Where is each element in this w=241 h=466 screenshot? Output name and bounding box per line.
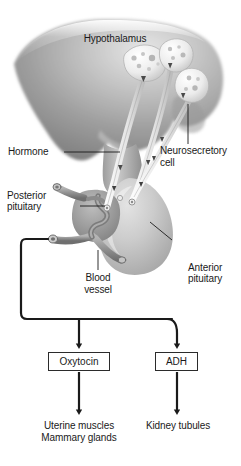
label-neurosecretory-cell-line2: cell bbox=[160, 157, 175, 169]
label-hypothalamus: Hypothalamus bbox=[62, 33, 168, 45]
label-posterior-pituitary-line1: Posterior bbox=[7, 190, 46, 202]
hormone-box-adh: ADH bbox=[155, 352, 198, 371]
label-anterior-pituitary-line2: pituitary bbox=[188, 273, 222, 285]
label-blood-vessel-line2: vessel bbox=[76, 284, 120, 296]
hormone-box-oxytocin: Oxytocin bbox=[48, 352, 110, 371]
target-oxytocin-line1: Uterine muscles bbox=[22, 420, 136, 432]
target-adh-line1: Kidney tubules bbox=[135, 420, 221, 432]
label-blood-vessel-line1: Blood bbox=[76, 272, 120, 284]
label-anterior-pituitary-line1: Anterior bbox=[188, 262, 222, 274]
hormone-flow-arrows bbox=[0, 0, 241, 466]
hypothalamus-pituitary-diagram: Hypothalamus Hormone Neurosecretory cell… bbox=[0, 0, 241, 466]
label-hormone: Hormone bbox=[8, 146, 48, 158]
arrow-to-adh bbox=[167, 319, 177, 346]
label-posterior-pituitary-line2: pituitary bbox=[7, 201, 41, 213]
target-oxytocin-line2: Mammary glands bbox=[22, 432, 136, 444]
label-neurosecretory-cell-line1: Neurosecretory bbox=[160, 145, 227, 157]
